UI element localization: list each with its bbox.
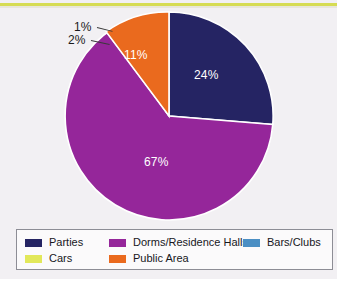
pie-slice-parties[interactable] xyxy=(169,12,273,125)
legend-swatch-bars-clubs xyxy=(243,239,260,247)
legend-label-dorms: Dorms/Residence Halls xyxy=(133,237,248,248)
pie-slices xyxy=(65,12,273,220)
pie-callout-label-cars: 1% xyxy=(74,20,91,34)
legend-label-cars: Cars xyxy=(49,253,72,264)
chart-legend: Parties Cars Dorms/Residence Halls Publi… xyxy=(16,229,333,270)
legend-item-parties[interactable]: Parties xyxy=(25,237,83,248)
legend-label-bars-clubs: Bars/Clubs xyxy=(267,237,321,248)
legend-swatch-cars xyxy=(25,255,42,263)
pie-label-public-area: 11% xyxy=(124,48,148,62)
top-rule-shadow xyxy=(0,6,337,8)
pie-callout-label-bars-clubs: 2% xyxy=(68,33,85,47)
legend-item-bars-clubs[interactable]: Bars/Clubs xyxy=(243,237,321,248)
legend-item-cars[interactable]: Cars xyxy=(25,253,72,264)
legend-item-dorms[interactable]: Dorms/Residence Halls xyxy=(109,237,248,248)
legend-item-public-area[interactable]: Public Area xyxy=(109,253,189,264)
pie-label-dorms: 67% xyxy=(144,155,169,169)
legend-swatch-public-area xyxy=(109,255,126,263)
legend-swatch-parties xyxy=(25,239,42,247)
legend-label-public-area: Public Area xyxy=(133,253,189,264)
legend-swatch-dorms xyxy=(109,239,126,247)
pie-label-parties: 24% xyxy=(194,68,219,82)
legend-label-parties: Parties xyxy=(49,237,83,248)
chart-page: 24% 67% 11% 1% 2% Parties Cars Dorms/Res… xyxy=(0,0,348,286)
